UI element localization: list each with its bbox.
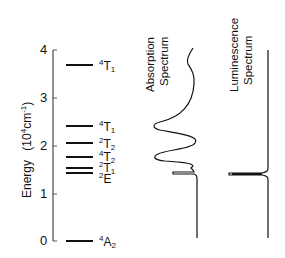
absorption-title-line1: Absorption (144, 37, 156, 92)
luminescence-title-line2: Spectrum (242, 36, 254, 85)
energy-level-diagram: 0 1 2 3 4 Energy (104cm-1) 4T1 4T1 2T2 4… (0, 0, 285, 258)
tick-label-4: 4 (40, 42, 47, 57)
tick-label-2: 2 (40, 138, 47, 153)
absorption-title-line2: Spectrum (158, 37, 170, 86)
level-label-4T1-lower: 4T1 (99, 119, 116, 135)
level-label-2E: 2E (99, 171, 111, 186)
energy-axis: 0 1 2 3 4 (40, 42, 57, 248)
level-label-4A2: 4A2 (99, 234, 116, 250)
luminescence-title-line1: Luminescence (228, 18, 240, 92)
tick-label-1: 1 (40, 186, 47, 201)
tick-label-3: 3 (40, 90, 47, 105)
level-label-4T1-upper: 4T1 (99, 58, 116, 74)
energy-levels (66, 65, 93, 241)
axis-title: Energy (104cm-1) (19, 102, 34, 198)
tick-label-0: 0 (40, 233, 47, 248)
